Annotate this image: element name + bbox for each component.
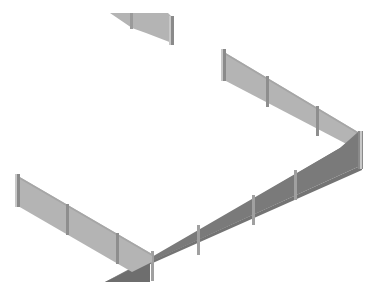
post-highlight: [15, 174, 17, 207]
background: [0, 0, 375, 296]
fence-post: [294, 170, 297, 200]
fence-post: [252, 195, 255, 225]
post-highlight: [221, 49, 223, 81]
fence-post: [197, 225, 200, 255]
fence-post: [66, 204, 69, 235]
fence-post: [130, 13, 133, 29]
fence-post: [316, 106, 319, 136]
fence-post: [266, 76, 269, 107]
post-highlight: [169, 16, 171, 45]
fence-post: [116, 233, 119, 264]
post-highlight: [360, 131, 362, 169]
fence-scene: [0, 0, 375, 296]
